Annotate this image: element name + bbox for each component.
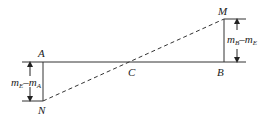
left-dimension-label: mE–mA (11, 76, 42, 90)
dashed-line-nm (43, 19, 224, 101)
label-m: M (217, 5, 228, 17)
label-n: N (37, 104, 46, 116)
label-a: A (37, 47, 45, 59)
diagram: A N C B M mE–mA mB–mE (0, 0, 267, 126)
right-dimension-label: mB–mE (227, 33, 258, 47)
label-c: C (128, 66, 136, 78)
label-b: B (217, 66, 224, 78)
